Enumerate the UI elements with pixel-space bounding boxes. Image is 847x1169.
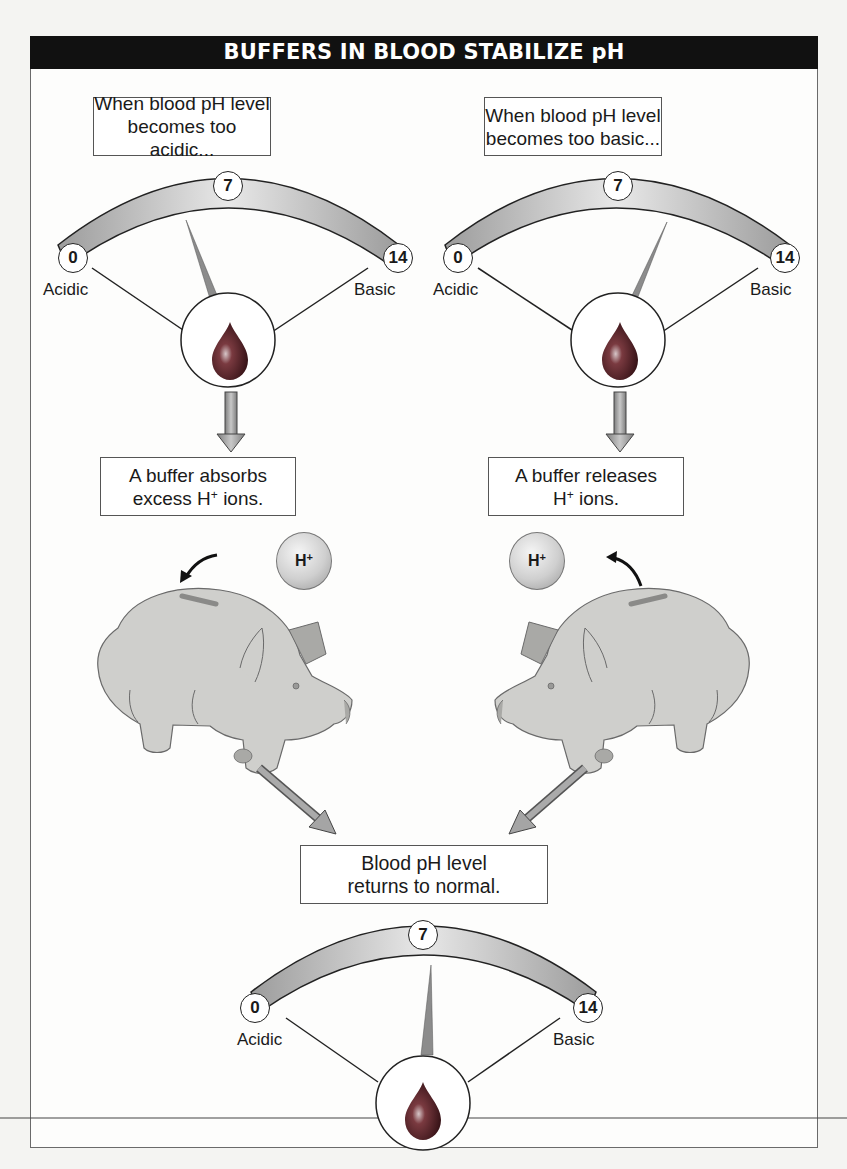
- scale-mid-result: 7: [408, 920, 438, 950]
- diagram-artwork: [0, 0, 847, 1169]
- basic-label-left: Basic: [354, 280, 396, 300]
- action-box-releases: A buffer releases H+ ions.: [488, 457, 684, 516]
- scale-max-right: 14: [770, 243, 800, 273]
- condition-box-basic: When blood pH level becomes too basic...: [484, 97, 662, 156]
- result-text-line2: returns to normal.: [301, 875, 547, 898]
- hydrogen-ion-right: H+: [509, 532, 565, 590]
- action-text-line1: A buffer absorbs: [101, 464, 295, 487]
- arrow-diagonal-left: [259, 768, 336, 834]
- curved-arrow-out-of-bank: [606, 551, 641, 586]
- action-text-line2: excess H+ ions.: [101, 487, 295, 510]
- result-text-line1: Blood pH level: [301, 852, 547, 875]
- scale-max-result: 14: [573, 993, 603, 1023]
- action-text-line1: A buffer releases: [489, 464, 683, 487]
- arrow-diagonal-right: [509, 768, 585, 834]
- arrow-down-right: [606, 392, 634, 452]
- curved-arrow-into-bank: [180, 555, 217, 583]
- piggy-bank-left: [98, 589, 352, 774]
- condition-box-acidic: When blood pH level becomes too acidic..…: [93, 97, 271, 156]
- basic-label-right: Basic: [750, 280, 792, 300]
- scale-max-left: 14: [383, 243, 413, 273]
- scale-min-result: 0: [240, 993, 270, 1023]
- hydrogen-ion-left: H+: [276, 532, 332, 590]
- condition-text-line1: When blood pH level: [94, 92, 270, 115]
- action-box-absorbs: A buffer absorbs excess H+ ions.: [100, 457, 296, 516]
- basic-label-result: Basic: [553, 1030, 595, 1050]
- acidic-label-result: Acidic: [237, 1030, 282, 1050]
- arrow-down-left: [217, 392, 245, 452]
- condition-text-line2: becomes too acidic...: [94, 115, 270, 161]
- scale-min-left: 0: [58, 243, 88, 273]
- scale-mid-right: 7: [603, 171, 633, 201]
- condition-text-line1: When blood pH level: [485, 104, 661, 127]
- gauge-result: [0, 926, 847, 1150]
- scale-min-right: 0: [443, 243, 473, 273]
- acidic-label-right: Acidic: [433, 280, 478, 300]
- gauge-right: [445, 179, 790, 388]
- condition-text-line2: becomes too basic...: [485, 127, 661, 150]
- acidic-label-left: Acidic: [43, 280, 88, 300]
- action-text-line2: H+ ions.: [489, 487, 683, 510]
- gauge-left: [58, 179, 399, 388]
- result-box: Blood pH level returns to normal.: [300, 845, 548, 904]
- piggy-bank-right: [495, 589, 749, 774]
- scale-mid-left: 7: [213, 171, 243, 201]
